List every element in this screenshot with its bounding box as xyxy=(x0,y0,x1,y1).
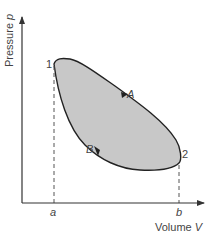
point-2-label: 2 xyxy=(182,148,188,160)
pv-diagram: Pressure p Volume V 1 2 A B a b xyxy=(0,0,219,239)
point-1-label: 1 xyxy=(46,58,52,70)
path-b-label: B xyxy=(86,143,93,155)
y-axis-label: Pressure p xyxy=(3,14,15,67)
cycle-area xyxy=(54,59,181,171)
x-tick-b: b xyxy=(176,206,182,218)
x-tick-a: a xyxy=(50,206,56,218)
path-a-label: A xyxy=(126,88,134,100)
x-axis-label: Volume V xyxy=(155,221,204,233)
